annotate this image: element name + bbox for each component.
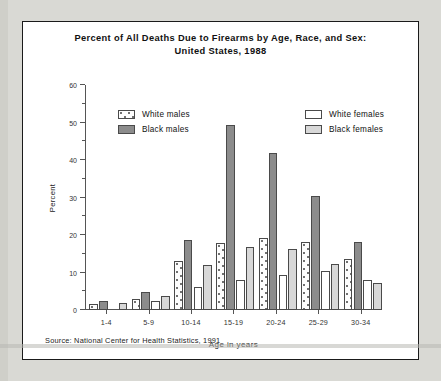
y-tick-label: 0	[73, 307, 77, 314]
y-tick-label: 60	[69, 82, 77, 89]
x-tick	[106, 310, 107, 314]
bar-black-females	[331, 264, 340, 311]
bar-black-males	[354, 242, 363, 310]
x-tick-label: 15-19	[224, 318, 243, 327]
bar-white-females	[151, 301, 160, 310]
x-tick-label: 5-9	[143, 318, 154, 327]
chart-subtitle: United States, 1988	[23, 45, 418, 58]
x-tick	[361, 310, 362, 314]
bar-group: 10-14	[170, 85, 212, 310]
bar-white-males	[301, 242, 310, 310]
x-tick	[149, 310, 150, 314]
bar-white-females	[321, 271, 330, 310]
y-tick-label: 30	[69, 194, 77, 201]
bar-white-males	[132, 299, 141, 310]
plot-area: 0102030405060 Percent 1-45-910-1415-1920…	[85, 85, 382, 310]
x-tick	[318, 310, 319, 314]
y-tick-label: 40	[69, 157, 77, 164]
bar-black-males	[311, 196, 320, 310]
x-tick-label: 20-24	[266, 318, 285, 327]
bar-white-females	[279, 275, 288, 310]
x-tick-label: 10-14	[181, 318, 200, 327]
chart-title-block: Percent of All Deaths Due to Firearms by…	[23, 32, 418, 58]
bar-black-females	[203, 265, 212, 310]
page-edge-shading	[0, 0, 8, 381]
bar-black-females	[119, 303, 128, 310]
x-tick-label: 25-29	[309, 318, 328, 327]
bar-group: 1-4	[85, 85, 127, 310]
bar-black-females	[246, 247, 255, 310]
page-edge-strip	[0, 344, 441, 348]
bar-black-females	[288, 249, 297, 310]
bar-series-container: 1-45-910-1415-1920-2425-2930-34	[85, 85, 382, 310]
bar-black-males	[141, 292, 150, 310]
bar-white-males	[89, 304, 98, 310]
bar-black-males	[184, 240, 193, 310]
bar-white-males	[344, 259, 353, 310]
x-tick-label: 30-34	[351, 318, 370, 327]
bar-black-males	[99, 301, 108, 310]
y-tick-label: 10	[69, 269, 77, 276]
bar-white-females	[194, 287, 203, 310]
bar-black-males	[226, 125, 235, 310]
bar-group: 15-19	[212, 85, 254, 310]
bar-group: 25-29	[297, 85, 339, 310]
bar-white-females	[236, 280, 245, 310]
bar-white-males	[259, 238, 268, 310]
x-tick	[191, 310, 192, 314]
bar-group: 20-24	[255, 85, 297, 310]
bar-group: 5-9	[127, 85, 169, 310]
chart-figure: Percent of All Deaths Due to Firearms by…	[22, 21, 419, 360]
y-tick-label: 20	[69, 232, 77, 239]
chart-title: Percent of All Deaths Due to Firearms by…	[23, 32, 418, 45]
bar-white-males	[174, 261, 183, 310]
y-axis-label: Percent	[48, 183, 57, 211]
bar-group: 30-34	[340, 85, 382, 310]
bar-white-males	[216, 243, 225, 311]
y-tick-label: 50	[69, 119, 77, 126]
x-tick	[276, 310, 277, 314]
x-tick-label: 1-4	[101, 318, 112, 327]
x-tick	[233, 310, 234, 314]
bar-black-females	[373, 283, 382, 310]
bar-black-males	[269, 153, 278, 310]
bar-black-females	[161, 296, 170, 310]
bar-white-females	[363, 280, 372, 310]
